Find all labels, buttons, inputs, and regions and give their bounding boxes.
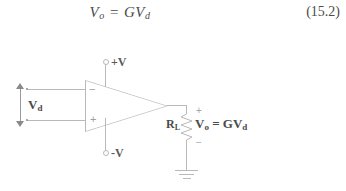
inverting-input-wire	[27, 89, 85, 90]
equation-rhs-subscript: d	[145, 10, 151, 21]
ground-bar-2	[179, 174, 194, 175]
equation-expression: Vo = GVd	[0, 4, 240, 21]
equation-row: Vo = GVd (15.2)	[0, 4, 346, 34]
ground-bar-1	[175, 170, 198, 171]
output-polarity-plus: +	[196, 106, 202, 116]
noninverting-input-node	[26, 119, 28, 121]
differential-input-label: Vd	[28, 98, 42, 113]
equation-rhs: V	[135, 4, 145, 20]
output-voltage-label: Vo = GVd	[195, 117, 247, 132]
positive-supply-terminal	[103, 59, 109, 65]
ground-bar-3	[183, 178, 191, 179]
noninverting-input-wire	[27, 120, 85, 121]
positive-supply-wire	[105, 64, 106, 87]
equation-relation: = G	[105, 4, 135, 20]
opamp-triangle-fill	[86, 81, 166, 131]
load-resistor	[180, 112, 193, 142]
negative-supply-terminal	[103, 150, 109, 156]
differential-input-arrow-shaft	[20, 88, 21, 122]
noninverting-input-sign: +	[90, 114, 96, 125]
circuit-diagram: − + Vd +V -V RL + − Vo = GVd	[0, 50, 346, 191]
negative-supply-wire	[105, 118, 106, 151]
negative-supply-label: -V	[111, 147, 124, 159]
equation-lhs: V	[90, 4, 100, 20]
output-wire-horizontal	[167, 105, 187, 106]
equation-number: (15.2)	[306, 4, 340, 20]
ground-wire	[186, 142, 187, 170]
output-polarity-minus: −	[196, 138, 202, 148]
differential-input-arrow-up	[16, 83, 24, 89]
positive-supply-label: +V	[111, 56, 127, 68]
inverting-input-node	[26, 88, 28, 90]
inverting-input-sign: −	[89, 84, 95, 95]
differential-input-arrow-down	[16, 121, 24, 127]
load-resistor-label: RL	[166, 118, 180, 132]
